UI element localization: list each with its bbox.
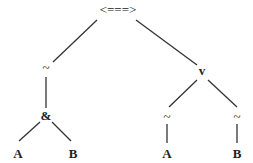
edge-and-a	[19, 122, 40, 141]
leaf-b-left: B	[69, 146, 78, 161]
biconditional-node: <===>	[100, 2, 137, 17]
leaf-a-right: A	[162, 146, 172, 161]
edge-or-not-a	[169, 80, 197, 107]
leaf-a-left: A	[13, 146, 23, 161]
edge-root-left-not	[53, 20, 97, 62]
parse-tree-diagram: <===> ~ & A B v ~ ~ A B	[0, 0, 253, 163]
edge-root-or	[136, 20, 197, 65]
edge-or-not-b	[208, 80, 237, 107]
disjunction-node: v	[199, 63, 206, 78]
negation-node-right-b: ~	[233, 109, 240, 124]
negation-node-right-a: ~	[163, 109, 170, 124]
leaf-b-right: B	[233, 146, 242, 161]
conjunction-node: &	[41, 108, 52, 123]
negation-node-left: ~	[42, 60, 49, 75]
edge-and-b	[52, 122, 71, 141]
